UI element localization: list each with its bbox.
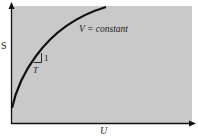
x-axis-label: U bbox=[100, 125, 108, 136]
x-axis-arrow-icon bbox=[189, 121, 196, 127]
slope-rise-label: 1 bbox=[44, 53, 49, 63]
y-axis-arrow-icon bbox=[9, 2, 15, 9]
curve-label: V = constant bbox=[79, 24, 128, 34]
diagram-canvas: 1 T V = constant S U bbox=[0, 0, 198, 136]
y-axis-label: S bbox=[1, 40, 7, 51]
